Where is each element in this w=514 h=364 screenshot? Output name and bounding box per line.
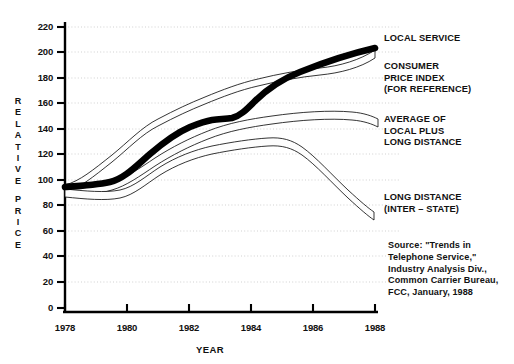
x-tick-label-1986: 1986 xyxy=(296,322,330,333)
x-tick-label-1978: 1978 xyxy=(48,322,82,333)
y-axis-title: RELATIVE PRICE xyxy=(10,96,26,251)
axis-lines xyxy=(63,22,378,312)
annotation-average: AVERAGE OF LOCAL PLUS LONG DISTANCE xyxy=(384,114,462,149)
x-tick-label-1980: 1980 xyxy=(110,322,144,333)
y-tick-label-120: 120 xyxy=(27,148,53,159)
x-axis-title: YEAR xyxy=(196,344,224,355)
x-tick-label-1988: 1988 xyxy=(358,322,392,333)
line-chart-canvas xyxy=(0,0,514,364)
x-tick-label-1982: 1982 xyxy=(172,322,206,333)
y-tick-label-20: 20 xyxy=(27,276,53,287)
chart-figure: 220 200 180 160 140 120 100 80 60 40 20 … xyxy=(0,0,514,364)
y-tick-label-180: 180 xyxy=(27,72,53,83)
y-tick-label-60: 60 xyxy=(27,225,53,236)
annotation-cpi: CONSUMER PRICE INDEX (FOR REFERENCE) xyxy=(384,61,471,96)
y-tick-label-0: 0 xyxy=(27,302,53,313)
y-tick-label-100: 100 xyxy=(27,174,53,185)
y-tick-label-80: 80 xyxy=(27,199,53,210)
y-tick-label-220: 220 xyxy=(27,21,53,32)
y-tick-label-200: 200 xyxy=(27,46,53,57)
annotation-source: Source: "Trends in Telephone Service," I… xyxy=(388,240,498,299)
y-tick-label-160: 160 xyxy=(27,97,53,108)
y-tick-label-40: 40 xyxy=(27,250,53,261)
annotation-local-service: LOCAL SERVICE xyxy=(384,33,460,45)
y-tick-label-140: 140 xyxy=(27,123,53,134)
annotation-long-distance: LONG DISTANCE (INTER – STATE) xyxy=(384,192,462,215)
x-tick-label-1984: 1984 xyxy=(234,322,268,333)
